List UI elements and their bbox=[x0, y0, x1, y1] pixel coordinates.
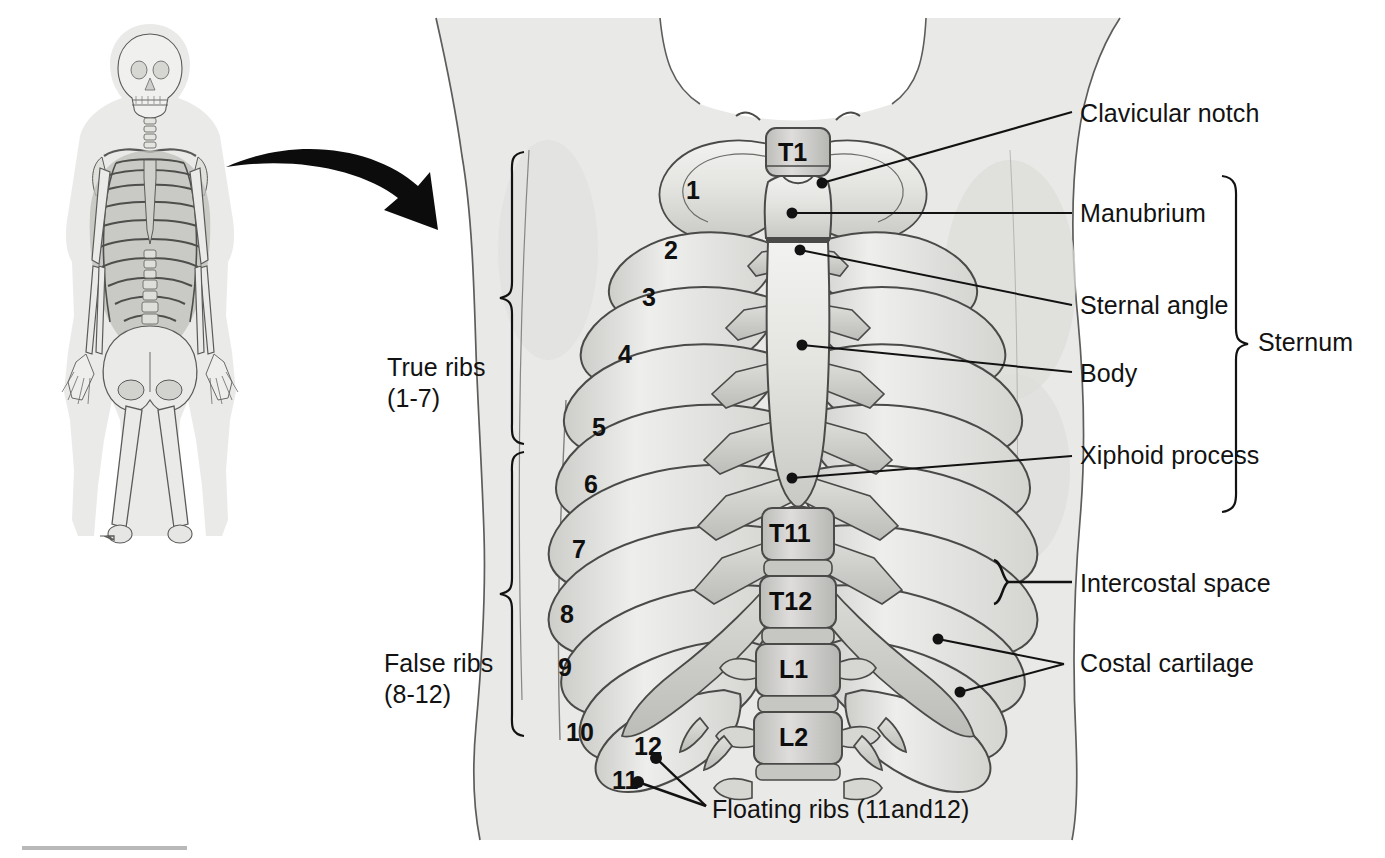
vertebra-label-t12: T12 bbox=[769, 589, 812, 614]
zoom-arrow bbox=[226, 149, 438, 230]
rib-number-11: 11 bbox=[612, 768, 638, 793]
scan-artifact-line bbox=[22, 846, 187, 850]
vertebra-label-l1: L1 bbox=[779, 657, 808, 682]
figure-canvas: Clavicular notch Manubrium Sternal angle… bbox=[0, 0, 1385, 858]
vertebra-label-t11: T11 bbox=[769, 521, 811, 546]
label-true-ribs-line2: (1-7) bbox=[387, 383, 440, 413]
label-body: Body bbox=[1080, 358, 1137, 388]
rib-number-8: 8 bbox=[560, 602, 574, 627]
label-clavicular-notch: Clavicular notch bbox=[1080, 98, 1259, 128]
anatomical-illustration bbox=[0, 0, 1385, 858]
rib-number-2: 2 bbox=[664, 238, 678, 263]
rib-number-5: 5 bbox=[592, 415, 606, 440]
rib-number-7: 7 bbox=[572, 537, 586, 562]
label-xiphoid-process: Xiphoid process bbox=[1080, 440, 1270, 470]
label-costal-cartilage: Costal cartilage bbox=[1080, 648, 1254, 678]
rib-number-12: 12 bbox=[634, 734, 662, 759]
rib-number-4: 4 bbox=[618, 342, 632, 367]
label-intercostal-space: Intercostal space bbox=[1080, 568, 1271, 598]
rib-number-6: 6 bbox=[584, 472, 598, 497]
label-floating-ribs: Floating ribs (11and12) bbox=[712, 794, 970, 824]
label-false-ribs-line2: (8-12) bbox=[384, 679, 451, 709]
label-sternum: Sternum bbox=[1258, 327, 1353, 357]
label-true-ribs-line1: True ribs bbox=[387, 352, 486, 382]
rib-number-3: 3 bbox=[642, 285, 656, 310]
vertebra-label-t1: T1 bbox=[778, 140, 807, 165]
skeleton-overview bbox=[62, 24, 238, 543]
vertebra-label-l2: L2 bbox=[779, 725, 808, 750]
rib-number-9: 9 bbox=[558, 655, 572, 680]
label-sternal-angle: Sternal angle bbox=[1080, 290, 1229, 320]
rib-number-1: 1 bbox=[686, 178, 700, 203]
label-false-ribs-line1: False ribs bbox=[384, 648, 493, 678]
label-manubrium: Manubrium bbox=[1080, 198, 1206, 228]
rib-number-10: 10 bbox=[566, 720, 594, 745]
